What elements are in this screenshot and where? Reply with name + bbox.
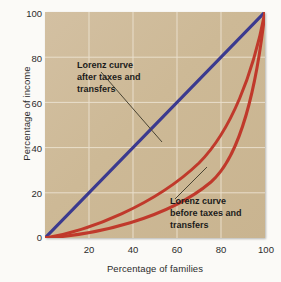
x-axis-title: Percentage of families — [45, 263, 265, 274]
x-tick-80: 80 — [206, 244, 236, 255]
x-tick-20: 20 — [74, 244, 104, 255]
annotation-after-line3: transfers — [77, 84, 141, 96]
annotation-lorenz-after: Lorenz curve after taxes and transfers — [77, 60, 141, 96]
plot-area: Lorenz curve after taxes and transfers L… — [45, 12, 265, 238]
annotation-lorenz-before: Lorenz curve before taxes and transfers — [170, 196, 242, 232]
annotation-before-line3: transfers — [170, 220, 242, 232]
annotation-after-line2: after taxes and — [77, 72, 141, 84]
x-tick-100: 100 — [251, 244, 281, 255]
x-tick-40: 40 — [118, 244, 148, 255]
annotation-before-line2: before taxes and — [170, 208, 242, 220]
lorenz-curve-chart: Percentage of income 100 80 60 40 20 0 2… — [0, 0, 281, 282]
annotation-after-line1: Lorenz curve — [77, 60, 141, 72]
x-tick-60: 60 — [162, 244, 192, 255]
annotation-before-line1: Lorenz curve — [170, 196, 242, 208]
